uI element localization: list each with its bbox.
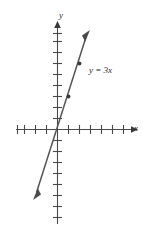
data-point-marker: [78, 62, 82, 66]
y-axis-arrowhead-icon: [54, 21, 61, 28]
y-axis: [54, 21, 61, 224]
data-point-marker: [67, 95, 71, 99]
coordinate-plane-figure: y x y = 3x: [0, 0, 143, 227]
line-equation-label: y = 3x: [89, 66, 112, 75]
line-upper-arrowhead-icon: [82, 30, 90, 42]
y-axis-label: y: [59, 11, 63, 20]
plotted-line-y-equals-3x: [33, 30, 90, 200]
x-axis: [16, 126, 138, 133]
x-axis-label: x: [134, 124, 138, 133]
line-segment: [37, 37, 87, 193]
graph-canvas: [0, 0, 143, 227]
